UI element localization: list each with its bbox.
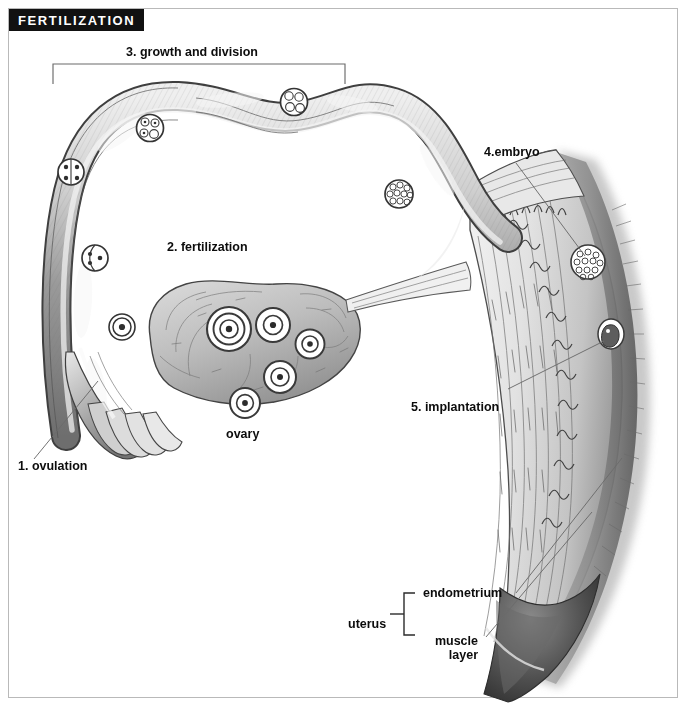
- cell-stage-4cell: [58, 159, 84, 185]
- implanted-embryo: [598, 319, 624, 349]
- label-step-3-growth-and-division: 3. growth and division: [126, 45, 258, 59]
- ovary-follicle-4: [264, 361, 296, 393]
- label-step-1-ovulation: 1. ovulation: [18, 459, 87, 473]
- label-muscle-layer-line1: muscle: [435, 634, 478, 648]
- ovary-follicle-mature: [207, 307, 251, 351]
- label-step-4-embryo: 4.embryo: [484, 145, 540, 159]
- ovary-illustration: [149, 281, 360, 418]
- label-endometrium: endometrium: [423, 586, 502, 600]
- figure-title: FERTILIZATION: [18, 14, 135, 27]
- label-step-2-fertilization: 2. fertilization: [167, 240, 248, 254]
- ligament-band: [346, 262, 471, 312]
- label-ovary: ovary: [226, 427, 259, 441]
- bracket-growth-division: [53, 64, 345, 84]
- ovary-follicle-2: [256, 308, 290, 342]
- ovary-follicle-3: [296, 330, 325, 359]
- label-muscle-layer-line2: layer: [449, 648, 478, 662]
- ovary-follicle-5: [230, 388, 260, 418]
- fertilization-illustration: [0, 0, 688, 708]
- blastocyst: [571, 245, 605, 280]
- cell-stage-2cell: [82, 245, 108, 271]
- cell-stage-morula-early: [281, 89, 308, 116]
- figure-canvas: FERTILIZATION 3. growth and division 2. …: [0, 0, 688, 708]
- cell-stage-ovum: [109, 314, 135, 340]
- ovarian-ligament: [346, 200, 471, 312]
- cell-stage-morula: [385, 180, 413, 208]
- label-uterus: uterus: [348, 617, 386, 631]
- cell-stage-8cell: [137, 115, 164, 142]
- figure-title-banner: FERTILIZATION: [9, 9, 144, 31]
- label-step-5-implantation: 5. implantation: [411, 400, 499, 414]
- bracket-uterus: [390, 593, 415, 635]
- label-muscle-layer: muscle layer: [406, 634, 478, 663]
